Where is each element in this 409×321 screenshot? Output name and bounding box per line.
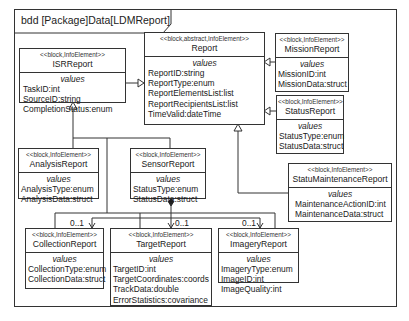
value-property: StatusType:enum	[279, 131, 341, 141]
value-property: TimeValid:dateTime	[148, 109, 261, 119]
stereotype-label: <<block,InfoElement>>	[132, 151, 204, 159]
block-target-report[interactable]: <<block,InfoElement>> TargetReport value…	[110, 228, 212, 306]
block-name: MissionReport	[277, 44, 347, 55]
values-list: CollectionType:enum CollectionData:struc…	[26, 264, 103, 286]
value-property: TargetID:int	[113, 264, 209, 274]
compartment-label: values	[145, 57, 264, 68]
block-header: <<block,InfoElement>> TargetReport	[111, 229, 211, 253]
value-property: StatusType:enum	[133, 184, 203, 194]
value-property: CollectionData:struct	[28, 274, 101, 284]
block-status-report[interactable]: <<block,InfoElement>> StatusReport value…	[276, 95, 344, 154]
diagram-title: bdd [Package]Data[LDMReport]	[21, 14, 170, 26]
block-maintenance-report[interactable]: <<block,InfoElement>> StatuMaintenanceRe…	[288, 163, 392, 222]
value-property: MissionData:struct	[278, 79, 346, 89]
block-collection-report[interactable]: <<block,InfoElement>> CollectionReport v…	[25, 228, 104, 289]
compartment-label: values	[20, 73, 125, 84]
values-list: StatusType:enum StatusData:struct	[277, 131, 343, 153]
stereotype-label: <<block,abstract,InfoElement>>	[146, 35, 263, 43]
block-sensor-report[interactable]: <<block,InfoElement>> SensorReport value…	[130, 148, 206, 199]
value-property: CollectionType:enum	[28, 264, 101, 274]
block-header: <<block,InfoElement>> StatusReport	[277, 96, 343, 120]
block-analysis-report[interactable]: <<block,InfoElement>> AnalysisReport val…	[18, 148, 99, 199]
compartment-label: values	[26, 253, 103, 264]
block-header: <<block,InfoElement>> SensorReport	[131, 149, 205, 173]
stereotype-label: <<block,InfoElement>>	[290, 166, 390, 174]
value-property: AnalysisData:struct	[21, 194, 96, 204]
block-name: ImageryReport	[220, 239, 297, 250]
value-property: ImageID:int	[221, 274, 296, 284]
values-list: ReportID:string ReportType:enum ReportEl…	[145, 68, 264, 121]
value-property: MaintenanceActionID:int	[295, 199, 385, 209]
block-name: AnalysisReport	[20, 159, 97, 170]
values-list: TargetID:int TargetCoordinates:coords Tr…	[111, 264, 211, 307]
compartment-label: values	[131, 173, 205, 184]
value-property: StatusData:struct	[279, 141, 341, 151]
values-list: TaskID:int SourceID:string CompletionSta…	[20, 84, 125, 117]
block-name: ISRReport	[21, 59, 124, 70]
stereotype-label: <<block,InfoElement>>	[20, 151, 97, 159]
value-property: TrackData:double	[113, 284, 209, 294]
block-header: <<block,InfoElement>> ImageryReport	[219, 229, 298, 253]
block-name: TargetReport	[112, 239, 210, 250]
block-report[interactable]: <<block,abstract,InfoElement>> Report va…	[144, 32, 265, 125]
block-name: CollectionReport	[27, 239, 102, 250]
value-property: StatusData:struct	[133, 194, 203, 204]
value-property: MaintenanceData:struct	[295, 209, 385, 219]
value-property: ImageQuality:int	[221, 284, 296, 294]
value-property: TaskID:int	[23, 84, 122, 94]
compartment-label: values	[219, 253, 298, 264]
stereotype-label: <<block,InfoElement>>	[278, 98, 342, 106]
block-header: <<block,InfoElement>> AnalysisReport	[19, 149, 98, 173]
block-name: Report	[146, 43, 263, 54]
block-isr-report[interactable]: <<block,InfoElement>> ISRReport values T…	[19, 48, 126, 103]
compartment-label: values	[276, 58, 348, 69]
values-list: MaintenanceActionID:int MaintenanceData:…	[289, 199, 391, 221]
value-property: ReportRecipientsList:list	[148, 99, 261, 109]
block-header: <<block,InfoElement>> CollectionReport	[26, 229, 103, 253]
value-property: ReportElementsList:list	[148, 88, 261, 98]
value-property: SourceID:string	[23, 94, 122, 104]
value-property: AnalysisType:enum	[21, 184, 96, 194]
block-header: <<block,InfoElement>> StatuMaintenanceRe…	[289, 164, 391, 188]
values-list: AnalysisType:enum AnalysisData:struct	[19, 184, 98, 206]
compartment-label: values	[19, 173, 98, 184]
stereotype-label: <<block,InfoElement>>	[220, 231, 297, 239]
stereotype-label: <<block,InfoElement>>	[277, 36, 347, 44]
values-list: MissionID:int MissionData:struct	[276, 69, 348, 91]
block-header: <<block,InfoElement>> ISRReport	[20, 49, 125, 73]
value-property: ReportID:string	[148, 68, 261, 78]
value-property: ImageryType:enum	[221, 264, 296, 274]
block-name: SensorReport	[132, 159, 204, 170]
block-name: StatuMaintenanceReport	[290, 174, 390, 185]
value-property: CompletionStatus:enum	[23, 104, 122, 114]
compartment-label: values	[111, 253, 211, 264]
compartment-label: values	[289, 188, 391, 199]
value-property: ReportType:enum	[148, 78, 261, 88]
block-header: <<block,InfoElement>> MissionReport	[276, 34, 348, 58]
stereotype-label: <<block,InfoElement>>	[27, 231, 102, 239]
block-header: <<block,abstract,InfoElement>> Report	[145, 33, 264, 57]
stereotype-label: <<block,InfoElement>>	[21, 51, 124, 59]
value-property: TargetCoordinates:coords	[113, 274, 209, 284]
values-list: StatusType:enum StatusData:struct	[131, 184, 205, 206]
block-imagery-report[interactable]: <<block,InfoElement>> ImageryReport valu…	[218, 228, 299, 283]
block-mission-report[interactable]: <<block,InfoElement>> MissionReport valu…	[275, 33, 349, 92]
value-property: ErrorStatistics:covariance	[113, 295, 209, 305]
compartment-label: values	[277, 120, 343, 131]
multiplicity-collection: 0..1	[70, 218, 84, 228]
stereotype-label: <<block,InfoElement>>	[112, 231, 210, 239]
multiplicity-imagery: 0..1	[242, 218, 256, 228]
values-list: ImageryType:enum ImageID:int ImageQualit…	[219, 264, 298, 297]
multiplicity-target: 0..1	[175, 218, 189, 228]
value-property: MissionID:int	[278, 69, 346, 79]
block-name: StatusReport	[278, 106, 342, 117]
